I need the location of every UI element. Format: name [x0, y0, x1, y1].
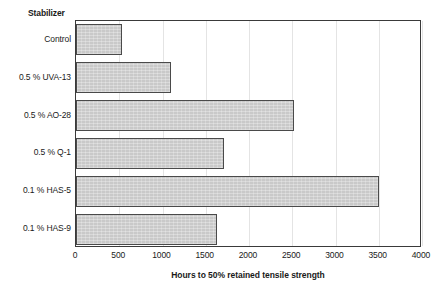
x-axis-title: Hours to 50% retained tensile strength [75, 270, 421, 280]
bar-chart: Stabilizer Control0.5 % UVA-130.5 % AO-2… [0, 0, 445, 294]
bar-0-1-has-9 [76, 214, 217, 245]
category-label: 0.1 % HAS-5 [0, 185, 71, 195]
bar-row [76, 24, 422, 55]
bar-0-5-q-1 [76, 138, 224, 169]
gridline-4000 [422, 21, 423, 246]
bar-row [76, 214, 422, 245]
x-tick-label: 3500 [368, 250, 387, 260]
bar-row [76, 62, 422, 93]
bar-0-5-ao-28 [76, 100, 294, 131]
category-label: Control [0, 34, 71, 44]
x-tick-label: 2500 [282, 250, 301, 260]
category-label: 0.5 % AO-28 [0, 110, 71, 120]
category-axis-labels: Control0.5 % UVA-130.5 % AO-280.5 % Q-10… [0, 20, 71, 247]
bar-row [76, 100, 422, 131]
bar-control [76, 24, 122, 55]
category-label: 0.5 % Q-1 [0, 147, 71, 157]
plot-area [75, 20, 421, 247]
x-tick-label: 1000 [152, 250, 171, 260]
category-label: 0.1 % HAS-9 [0, 223, 71, 233]
x-tick-label: 2000 [239, 250, 258, 260]
bar-0-1-has-5 [76, 176, 379, 207]
x-tick-label: 3000 [325, 250, 344, 260]
category-label: 0.5 % UVA-13 [0, 72, 71, 82]
x-tick-label: 1500 [195, 250, 214, 260]
category-axis-header: Stabilizer [28, 8, 65, 18]
bar-row [76, 138, 422, 169]
x-axis-tick-labels: 05001000150020002500300035004000 [0, 250, 445, 262]
bars-layer [76, 21, 420, 246]
x-tick-label: 0 [73, 250, 78, 260]
bar-0-5-uva-13 [76, 62, 171, 93]
x-tick-label: 4000 [412, 250, 431, 260]
x-tick-label: 500 [111, 250, 125, 260]
bar-row [76, 176, 422, 207]
